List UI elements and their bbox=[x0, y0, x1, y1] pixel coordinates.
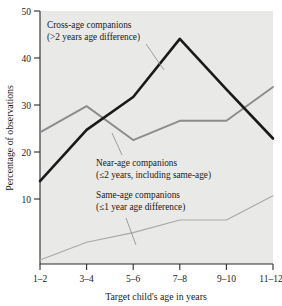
y-tick-label-40: 40 bbox=[22, 54, 32, 64]
line-chart: 50 40 30 20 10 Percentage of observation… bbox=[0, 0, 282, 306]
x-axis-ticks bbox=[40, 264, 273, 270]
y-tick-label-30: 30 bbox=[22, 101, 32, 111]
y-axis-ticks bbox=[34, 11, 40, 199]
x-axis-tick-labels: 1–2 3–4 5–6 7–8 9–10 11–12 bbox=[33, 274, 282, 284]
annotation-near-age-line1: Near-age companions bbox=[96, 158, 178, 168]
y-tick-label-10: 10 bbox=[22, 195, 32, 205]
annotation-near-age-line2: (≤2 years, including same-age) bbox=[96, 170, 211, 181]
y-tick-label-50: 50 bbox=[22, 7, 32, 17]
annotation-same-age-line2: (≤1 year age difference) bbox=[96, 202, 185, 213]
y-axis-tick-labels: 50 40 30 20 10 bbox=[22, 7, 32, 205]
x-axis-title: Target child's age in years bbox=[105, 291, 207, 302]
annotation-cross-age: Cross-age companions (>2 years age diffe… bbox=[47, 20, 140, 43]
x-tick-label-4: 7–8 bbox=[173, 274, 188, 284]
x-tick-label-6: 11–12 bbox=[259, 274, 282, 284]
x-tick-label-3: 5–6 bbox=[126, 274, 141, 284]
annotation-same-age: Same-age companions (≤1 year age differe… bbox=[96, 190, 185, 213]
annotation-cross-age-line2: (>2 years age difference) bbox=[47, 32, 140, 43]
annotation-cross-age-line1: Cross-age companions bbox=[47, 20, 132, 30]
y-axis-title: Percentage of observations bbox=[4, 85, 15, 191]
chart-figure: 50 40 30 20 10 Percentage of observation… bbox=[0, 0, 282, 306]
y-tick-label-20: 20 bbox=[22, 148, 32, 158]
x-tick-label-5: 9–10 bbox=[217, 274, 236, 284]
x-tick-label-1: 1–2 bbox=[33, 274, 48, 284]
annotation-same-age-line1: Same-age companions bbox=[96, 190, 180, 200]
x-tick-label-2: 3–4 bbox=[79, 274, 94, 284]
